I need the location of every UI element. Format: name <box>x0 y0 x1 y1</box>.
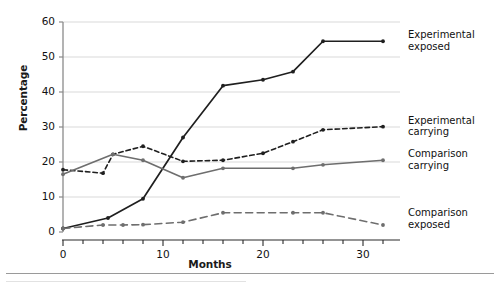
data-point <box>121 223 125 227</box>
series-label-line: exposed <box>408 41 475 53</box>
series-label-line: Experimental <box>408 29 475 41</box>
axis-lines <box>62 22 400 240</box>
y-axis-title: Percentage <box>17 53 29 143</box>
data-point <box>106 216 110 220</box>
x-tick-label: 20 <box>250 248 276 260</box>
x-tick-label: 10 <box>150 248 176 260</box>
data-point <box>221 84 225 88</box>
data-point <box>61 172 65 176</box>
data-point <box>381 223 385 227</box>
y-tick-label: 60 <box>29 15 55 27</box>
series-label-line: carrying <box>408 126 475 138</box>
y-tick-label: 20 <box>29 155 55 167</box>
data-point <box>221 211 225 215</box>
y-tick-label: 50 <box>29 50 55 62</box>
data-point <box>291 70 295 74</box>
series-label-line: Comparison <box>408 148 468 160</box>
chart-figure: Percentage Months 0102030405060 0102030 … <box>0 0 500 285</box>
data-point <box>181 136 185 140</box>
series-label-2: Comparisoncarrying <box>408 148 468 171</box>
data-point <box>181 159 185 163</box>
data-point <box>381 158 385 162</box>
y-tick-label: 0 <box>29 225 55 237</box>
data-point <box>141 144 145 148</box>
series-label-line: Experimental <box>408 115 475 127</box>
data-point <box>291 140 295 144</box>
footer-divider-secondary <box>6 281 246 282</box>
data-point <box>321 211 325 215</box>
data-point <box>291 166 295 170</box>
data-point <box>221 158 225 162</box>
series-label-line: carrying <box>408 160 468 172</box>
series-label-line: exposed <box>408 219 468 231</box>
x-tick-label: 30 <box>350 248 376 260</box>
data-point <box>101 223 105 227</box>
gridlines <box>63 22 400 197</box>
data-point <box>101 171 105 175</box>
data-series-layer <box>61 39 385 230</box>
series-line-0 <box>63 41 383 228</box>
data-point <box>291 211 295 215</box>
series-line-3 <box>63 213 383 229</box>
data-point <box>381 39 385 43</box>
data-point <box>261 78 265 82</box>
data-point <box>141 197 145 201</box>
data-point <box>181 176 185 180</box>
data-point <box>61 168 65 172</box>
data-point <box>321 163 325 167</box>
y-tick-label: 10 <box>29 190 55 202</box>
series-label-3: Comparisonexposed <box>408 207 468 230</box>
data-point <box>111 152 115 156</box>
data-point <box>181 220 185 224</box>
data-point <box>141 223 145 227</box>
y-tick-label: 30 <box>29 120 55 132</box>
series-label-line: Comparison <box>408 207 468 219</box>
series-label-0: Experimentalexposed <box>408 29 475 52</box>
data-point <box>221 166 225 170</box>
data-point <box>321 39 325 43</box>
y-tick-label: 40 <box>29 85 55 97</box>
data-point <box>381 125 385 129</box>
data-point <box>61 227 65 231</box>
series-label-1: Experimentalcarrying <box>408 115 475 138</box>
series-line-1 <box>63 127 383 174</box>
data-point <box>261 151 265 155</box>
footer-divider <box>6 273 494 274</box>
data-point <box>321 128 325 132</box>
axis-ticks <box>59 22 383 246</box>
data-point <box>141 158 145 162</box>
x-tick-label: 0 <box>50 248 76 260</box>
